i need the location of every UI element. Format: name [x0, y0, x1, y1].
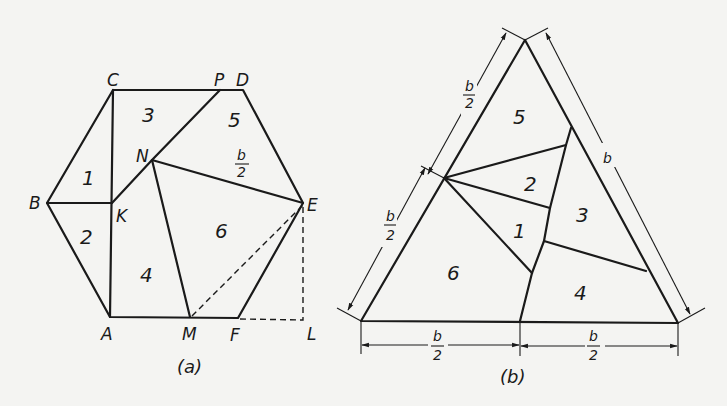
dimension-right: b	[603, 150, 612, 166]
ext-line-br	[678, 308, 705, 323]
piece-number-2: 2	[524, 172, 537, 196]
svg-text:b: b	[433, 328, 442, 344]
svg-text:2: 2	[433, 347, 442, 363]
vertex-label-P: P	[214, 70, 225, 90]
vertex-label-E: E	[307, 195, 318, 215]
piece-number-3: 3	[142, 103, 155, 127]
dissection-diagram: C P D B K N E A M F L 1 2 3 4 5 6 b 2 (a…	[0, 0, 727, 406]
line-NE	[152, 160, 303, 203]
svg-text:2: 2	[386, 227, 395, 243]
vertex-label-N: N	[136, 146, 149, 166]
line-piece-3-4	[544, 241, 646, 271]
piece-number-5: 5	[228, 108, 241, 132]
vertex-label-K: K	[116, 206, 129, 226]
svg-text:2: 2	[465, 95, 474, 111]
piece-number-6: 6	[215, 219, 228, 243]
vertex-label-D: D	[236, 70, 249, 90]
piece-number-1: 1	[82, 166, 95, 190]
piece-number-2: 2	[80, 225, 93, 249]
inner-divider	[520, 128, 571, 321]
piece-number-4: 4	[574, 281, 587, 305]
svg-text:b: b	[465, 78, 474, 94]
piece-number-3: 3	[576, 203, 589, 227]
figure-caption-a: (a)	[177, 356, 202, 377]
dimension-left-lower: b 2	[384, 208, 396, 243]
triangle-outline	[361, 40, 678, 323]
dimension-left-upper: b 2	[463, 78, 475, 111]
svg-text:2: 2	[237, 164, 246, 180]
vertex-label-L: L	[307, 324, 316, 344]
svg-text:b: b	[386, 208, 395, 224]
ext-line-apex-right	[525, 28, 548, 40]
piece-number-6: 6	[447, 261, 460, 285]
line-piece-2-top	[444, 145, 566, 178]
line-KNP	[112, 90, 220, 203]
line-NM	[152, 160, 190, 317]
figure-a: C P D B K N E A M F L 1 2 3 4 5 6 b 2 (a…	[29, 70, 318, 377]
ext-line-mid-left	[421, 166, 444, 178]
vertex-label-A: A	[100, 324, 113, 344]
piece-number-1: 1	[513, 219, 526, 243]
dim-line-right	[546, 33, 690, 314]
dimension-NE: b 2	[235, 147, 249, 180]
svg-text:2: 2	[589, 347, 598, 363]
figure-b: b 2 b 2 b b 2 b 2 1 2 3 4 5 6 (b)	[337, 28, 705, 387]
piece-number-5: 5	[513, 105, 526, 129]
piece-number-4: 4	[140, 263, 153, 287]
vertex-label-C: C	[107, 70, 119, 90]
svg-text:b: b	[589, 328, 598, 344]
svg-text:b: b	[237, 147, 246, 163]
vertex-label-M: M	[182, 324, 197, 344]
vertex-label-B: B	[29, 193, 41, 213]
dashed-FLE	[240, 205, 303, 320]
vertex-label-F: F	[230, 325, 240, 345]
ext-line-bl	[337, 308, 361, 321]
figure-caption-b: (b)	[500, 366, 525, 387]
